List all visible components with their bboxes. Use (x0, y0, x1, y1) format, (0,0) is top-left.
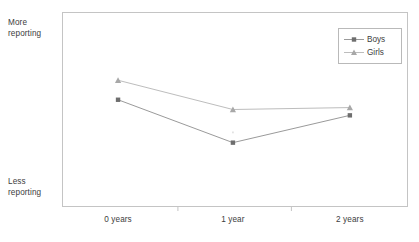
legend-label: Girls (365, 48, 384, 57)
chart-legend: BoysGirls (338, 28, 402, 64)
data-point-marker (231, 140, 235, 144)
data-point-marker (348, 113, 352, 117)
series-line (118, 80, 350, 109)
series-line (118, 100, 350, 143)
line-chart: More reporting Less reporting 0 years1 y… (0, 0, 419, 242)
series-layer (115, 77, 353, 145)
x-axis-tick-label-2: 2 years (336, 215, 364, 224)
square-marker-icon (343, 34, 365, 45)
series-boys (116, 98, 352, 145)
y-axis-low-label: Less reporting (8, 177, 41, 198)
x-axis-tick-label-0: 0 years (104, 215, 132, 224)
x-axis-tick-marks (178, 207, 291, 211)
y-axis-high-label: More reporting (8, 18, 41, 39)
data-point-marker (115, 77, 121, 83)
stray-mark (232, 132, 234, 134)
series-girls (115, 77, 353, 112)
legend-item-boys: Boys (343, 33, 396, 46)
legend-item-girls: Girls (343, 46, 396, 59)
data-point-marker (116, 98, 120, 102)
triangle-marker-icon (343, 47, 365, 58)
legend-label: Boys (365, 35, 385, 44)
x-axis-tick-label-1: 1 year (221, 215, 244, 224)
